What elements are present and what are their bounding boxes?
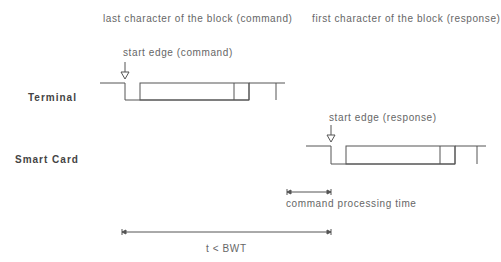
card-waveform bbox=[306, 146, 486, 164]
bwt-dimension-arrow-icon bbox=[122, 229, 331, 235]
start-edge-response-arrow-icon bbox=[327, 125, 335, 142]
terminal-waveform bbox=[100, 83, 285, 100]
processing-time-dimension-arrow-icon bbox=[287, 189, 331, 195]
timing-diagram bbox=[0, 0, 501, 262]
start-edge-command-arrow-icon bbox=[121, 62, 129, 79]
